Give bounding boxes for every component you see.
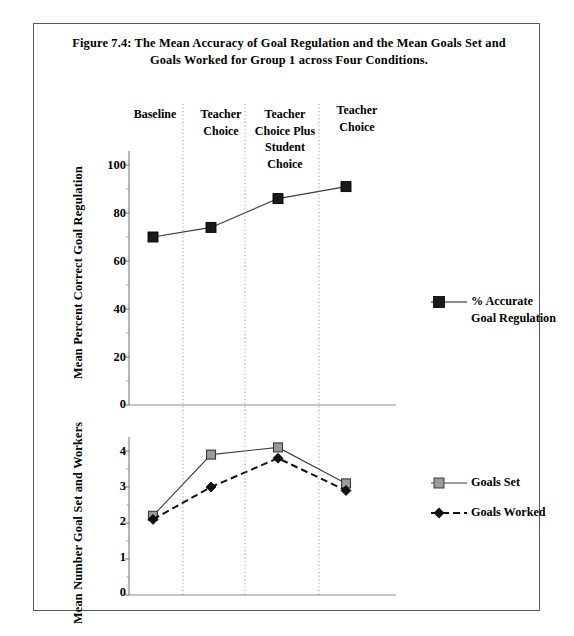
legend-item-goals-worked: Goals Worked (431, 504, 574, 521)
filled-diamond-marker-icon (431, 506, 467, 520)
top-tick-40: 40 (96, 302, 126, 317)
condition-header-teacher-choice-plus-student-choice: Teacher Choice Plus Student Choice (252, 106, 318, 172)
bottom-tick-0: 0 (96, 585, 126, 600)
top-panel-graph (125, 151, 396, 405)
condition-header-baseline: Baseline (119, 106, 191, 123)
legend-label-goal-regulation: Goal Regulation (471, 310, 571, 327)
top-panel-legend: % Accurate Goal Regulation (431, 293, 571, 327)
bottom-panel-graph (125, 437, 396, 595)
legend-item-goals-set: Goals Set (431, 474, 574, 491)
top-panel-y-axis-title: Mean Percent Correct Goal Regulation (71, 166, 86, 379)
bottom-panel-y-axis-title: Mean Number Goal Set and Workers (71, 422, 86, 624)
top-tick-20: 20 (96, 350, 126, 365)
bottom-tick-3: 3 (96, 479, 126, 494)
open-square-marker-icon (431, 476, 467, 490)
top-tick-60: 60 (96, 254, 126, 269)
legend-item-accurate-goal-regulation: % Accurate (431, 293, 571, 310)
legend-label-accurate: % Accurate (471, 293, 533, 310)
top-tick-80: 80 (96, 206, 126, 221)
condition-header-teacher-choice-2: Teacher Choice (324, 102, 390, 135)
figure-title: Figure 7.4: The Mean Accuracy of Goal Re… (56, 35, 522, 69)
legend-label-goals-worked: Goals Worked (471, 504, 546, 521)
bottom-panel-legend: Goals Set Goals Worked (431, 474, 574, 534)
top-tick-100: 100 (96, 158, 126, 173)
bottom-tick-2: 2 (96, 514, 126, 529)
condition-divider-lines (183, 104, 319, 595)
legend-label-goals-set: Goals Set (471, 474, 520, 491)
condition-header-teacher-choice: Teacher Choice (188, 106, 254, 139)
bottom-tick-1: 1 (96, 550, 126, 565)
bottom-tick-4: 4 (96, 444, 126, 459)
filled-square-marker-icon (431, 295, 467, 309)
top-tick-0: 0 (96, 397, 126, 412)
figure-frame: Figure 7.4: The Mean Accuracy of Goal Re… (33, 23, 540, 611)
